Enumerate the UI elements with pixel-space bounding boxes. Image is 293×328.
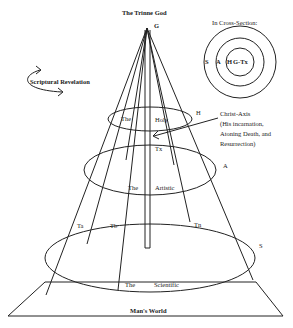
thread-tn: Tn (194, 222, 201, 229)
holy-marker: H (196, 110, 201, 117)
trinity-cone-diagram (0, 0, 293, 328)
ring-g-tx: G-Tx (233, 59, 248, 66)
christ-axis-line-2: Atoning Death, and (220, 131, 271, 138)
holy-name: Holy (155, 117, 168, 124)
thread-tb: Tb (110, 223, 117, 230)
scriptural-revelation-label: Scriptural Revelation (30, 79, 90, 86)
diagram-title: The Trinne God (122, 10, 167, 17)
ring-h: H (227, 59, 232, 66)
thread-ta: Ta (77, 223, 83, 230)
scientific-marker: S (259, 243, 263, 250)
ring-s: S (205, 59, 209, 66)
scientific-name: Scientific (154, 282, 179, 289)
christ-axis-tx: Tx (155, 146, 162, 153)
scientific-the: The (125, 282, 135, 289)
christ-axis-line-1: (His incarnation, (220, 121, 264, 128)
ring-a: A (216, 59, 221, 66)
artistic-marker: A (223, 163, 228, 170)
holy-the: The (121, 116, 131, 123)
apex-label: G (154, 23, 159, 30)
artistic-the: The (128, 185, 138, 192)
cross-section-title: In Cross-Section: (212, 20, 257, 27)
christ-axis-title: Christ-Axis (220, 111, 250, 118)
christ-axis-line-3: Resurrection) (220, 141, 255, 148)
artistic-name: Artistic (155, 185, 175, 192)
mans-world-label: Man's World (130, 308, 167, 315)
